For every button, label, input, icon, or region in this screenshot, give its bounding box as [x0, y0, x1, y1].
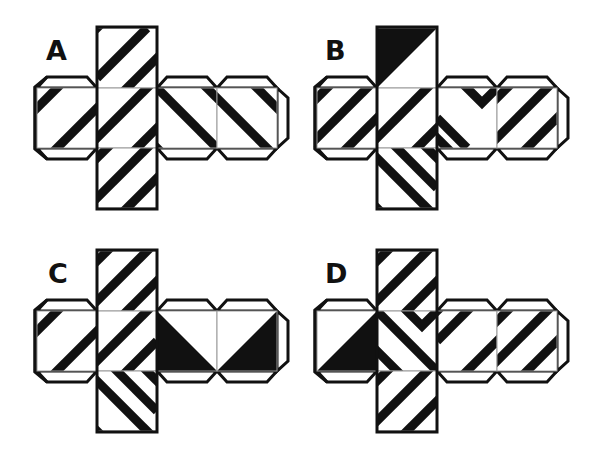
tab-right2-bottom [497, 371, 557, 382]
face-left [27, 78, 107, 158]
tab-right2-right [557, 88, 568, 148]
tab-right2-right [277, 88, 288, 148]
tab-right1-top [437, 77, 497, 88]
face-top [367, 241, 447, 321]
tab-right1-top [157, 300, 217, 311]
tab-right1-top [157, 77, 217, 88]
face-bottom [367, 361, 447, 441]
face-bottom [87, 138, 167, 218]
option-label-d: D [325, 260, 347, 287]
face-top [377, 28, 437, 88]
face-left [27, 301, 107, 381]
option-label-a: A [46, 37, 67, 64]
face-top [87, 241, 167, 321]
cube-net-puzzle: A B C D [0, 0, 602, 452]
tab-right1-bottom [437, 371, 497, 382]
tab-right2-right [557, 311, 568, 371]
tab-right2-top [497, 300, 557, 311]
tab-right1-bottom [157, 371, 217, 382]
tab-right2-bottom [217, 148, 277, 159]
face-top [87, 18, 167, 98]
face-right1 [427, 281, 507, 381]
option-label-c: C [48, 260, 68, 287]
option-label-b: B [325, 37, 346, 64]
net-option-d [315, 241, 568, 441]
face-right2 [487, 78, 567, 158]
tab-right1-bottom [437, 148, 497, 159]
tab-right2-top [217, 77, 277, 88]
face-right1 [157, 311, 217, 371]
tab-right2-top [497, 77, 557, 88]
tab-right1-top [437, 300, 497, 311]
tab-right1-bottom [157, 148, 217, 159]
tab-right2-bottom [497, 148, 557, 159]
net-option-b [307, 27, 568, 218]
tab-right2-right [277, 311, 288, 371]
face-right1 [427, 78, 507, 158]
face-left [307, 78, 387, 158]
face-right2 [217, 311, 277, 371]
cube-nets-drawing [0, 0, 602, 452]
face-right2 [487, 301, 567, 381]
tab-right2-top [217, 300, 277, 311]
tab-right2-bottom [217, 371, 277, 382]
face-left [317, 311, 377, 371]
